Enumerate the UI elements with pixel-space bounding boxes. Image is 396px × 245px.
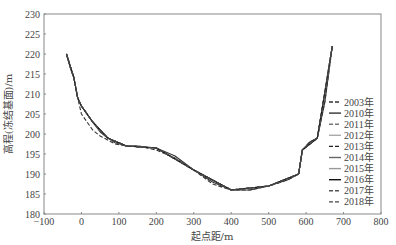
y-axis-label: 高程(冻结基面)/m bbox=[2, 73, 14, 154]
series-line-2016年 bbox=[66, 46, 332, 190]
series-line-2017年 bbox=[66, 46, 332, 190]
legend-label: 2017年 bbox=[344, 184, 374, 196]
y-tick-label: 210 bbox=[25, 89, 40, 100]
legend-label: 2003年 bbox=[344, 96, 374, 108]
series-line-2018年 bbox=[66, 46, 332, 190]
cross-section-chart: −100010020030040050060070080018018519019… bbox=[0, 0, 396, 245]
y-tick-label: 190 bbox=[25, 169, 40, 180]
series-line-2011年 bbox=[66, 46, 332, 190]
series-line-2014年 bbox=[66, 46, 332, 190]
y-tick-label: 225 bbox=[25, 29, 40, 40]
legend-label: 2015年 bbox=[344, 162, 374, 174]
series-line-2010年 bbox=[66, 46, 332, 190]
x-tick-label: 300 bbox=[186, 216, 201, 227]
y-tick-label: 230 bbox=[25, 9, 40, 20]
x-tick-label: 700 bbox=[336, 216, 351, 227]
legend-label: 2012年 bbox=[344, 129, 374, 141]
series-line-2003年 bbox=[66, 46, 332, 190]
x-tick-label: 500 bbox=[261, 216, 276, 227]
legend-label: 2011年 bbox=[344, 118, 374, 130]
legend-label: 2010年 bbox=[344, 107, 374, 119]
plot-area bbox=[44, 14, 381, 214]
y-tick-label: 215 bbox=[25, 69, 40, 80]
legend-label: 2014年 bbox=[344, 151, 374, 163]
legend: 2003年2010年2011年2012年2013年2014年2015年2016年… bbox=[329, 96, 374, 208]
y-tick-label: 195 bbox=[25, 149, 40, 160]
x-tick-label: 600 bbox=[299, 216, 314, 227]
y-tick-label: 220 bbox=[25, 49, 40, 60]
x-tick-label: 800 bbox=[374, 216, 389, 227]
y-tick-label: 200 bbox=[25, 129, 40, 140]
legend-label: 2013年 bbox=[344, 140, 374, 152]
x-tick-label: 200 bbox=[149, 216, 164, 227]
legend-label: 2016年 bbox=[344, 173, 374, 185]
x-axis-label: 起点距/m bbox=[191, 231, 234, 242]
legend-label: 2018年 bbox=[344, 195, 374, 207]
plot-border bbox=[44, 14, 381, 214]
series-line-2013年 bbox=[66, 46, 332, 190]
x-tick-label: 0 bbox=[79, 216, 84, 227]
y-tick-label: 185 bbox=[25, 189, 40, 200]
x-tick-label: 100 bbox=[111, 216, 126, 227]
series-line-2012年 bbox=[66, 46, 332, 190]
axes: −100010020030040050060070080018018519019… bbox=[25, 9, 389, 228]
y-tick-label: 205 bbox=[25, 109, 40, 120]
y-tick-label: 180 bbox=[25, 209, 40, 220]
series-line-2015年 bbox=[66, 46, 332, 190]
x-tick-label: 400 bbox=[224, 216, 239, 227]
series-lines bbox=[66, 46, 332, 190]
